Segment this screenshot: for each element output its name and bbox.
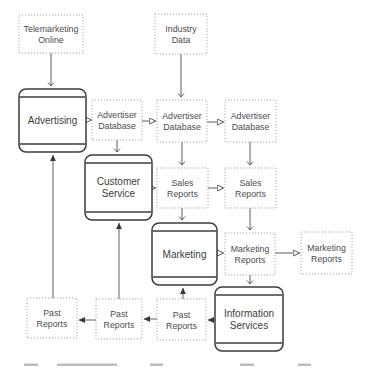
node-label-advertiser-database-1: AdvertiserDatabase <box>97 110 137 131</box>
node-sales-reports-1: SalesReports <box>157 168 208 208</box>
caption-fragment-2 <box>57 364 117 367</box>
caption-fragment-4 <box>240 364 254 367</box>
node-past-reports-2: PastReports <box>96 299 142 339</box>
cropped-caption-remnant <box>24 364 311 367</box>
caption-fragment-5 <box>298 364 311 367</box>
node-sales-reports-2: SalesReports <box>225 168 276 208</box>
nodes-layer: TelemarketingOnlineIndustryDataAdvertisi… <box>19 14 352 351</box>
node-past-reports-1: PastReports <box>27 298 77 338</box>
node-advertiser-database-2: AdvertiserDatabase <box>157 100 207 142</box>
node-label-marketing-reports-1: MarketingReports <box>231 244 270 265</box>
node-advertising: Advertising <box>19 89 86 152</box>
node-label-advertising: Advertising <box>28 115 77 126</box>
node-label-advertiser-database-2: AdvertiserDatabase <box>162 111 202 132</box>
node-information-services: InformationServices <box>215 287 283 351</box>
node-marketing: Marketing <box>152 223 217 285</box>
node-label-customer-service: CustomerService <box>97 176 141 199</box>
node-label-marketing: Marketing <box>163 249 207 260</box>
caption-fragment-1 <box>24 364 38 367</box>
diagram: TelemarketingOnlineIndustryDataAdvertisi… <box>0 0 367 368</box>
node-label-marketing-reports-2: MarketingReports <box>307 243 346 264</box>
diagram-canvas: TelemarketingOnlineIndustryDataAdvertisi… <box>0 0 367 368</box>
node-label-advertiser-database-3: AdvertiserDatabase <box>231 111 271 132</box>
node-label-information-services: InformationServices <box>224 308 274 331</box>
node-customer-service: CustomerService <box>85 155 152 220</box>
node-telemarketing-online: TelemarketingOnline <box>19 15 83 53</box>
node-industry-data: IndustryData <box>155 14 207 54</box>
node-advertiser-database-3: AdvertiserDatabase <box>225 100 276 142</box>
node-marketing-reports-1: MarketingReports <box>225 233 275 275</box>
node-past-reports-3: PastReports <box>157 299 206 340</box>
node-marketing-reports-2: MarketingReports <box>301 232 352 274</box>
caption-fragment-3 <box>150 364 163 367</box>
node-advertiser-database-1: AdvertiserDatabase <box>92 100 142 140</box>
